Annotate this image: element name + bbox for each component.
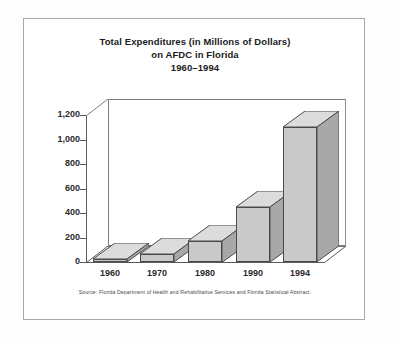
chart-frame: Total Expenditures (in Millions of Dolla… [23,18,365,320]
y-axis-tick-mark [80,189,86,190]
y-axis-tick-mark [80,115,86,116]
y-axis-tick-label: 600 [34,183,80,193]
x-axis-tick-label: 1980 [185,268,225,278]
x-axis-tick-label: 1960 [90,268,130,278]
plot-right-back-edge [345,99,346,247]
y-axis-tick-mark [80,164,86,165]
y-axis-line [86,115,87,262]
bar-front-face [93,259,127,262]
plot-area: 02004006008001,0001,200 1960197019801990… [24,77,366,321]
plot-depth-edge-top-left [86,99,109,116]
x-axis-tick-label: 1970 [137,268,177,278]
title-line-1: Total Expenditures (in Millions of Dolla… [24,35,366,48]
chart-page: Total Expenditures (in Millions of Dolla… [0,0,399,344]
y-axis-tick-mark [80,238,86,239]
y-axis-tick-label: 1,000 [34,134,80,144]
x-axis-labels: 19601970198019901994 [86,268,346,284]
x-axis-line [86,262,324,263]
y-axis-tick-mark [80,262,86,263]
title-line-3: 1960–1994 [24,61,366,74]
chart-title: Total Expenditures (in Millions of Dolla… [24,35,366,74]
y-axis-tick-label: 800 [34,158,80,168]
x-axis-tick-label: 1990 [233,268,273,278]
y-axis-tick-mark [80,140,86,141]
source-note: Source: Florida Department of Health and… [24,289,366,295]
y-axis-tick-label: 1,200 [34,109,80,119]
bar-1994 [283,111,339,262]
bar-front-face [236,207,270,262]
x-axis-tick-label: 1994 [280,268,320,278]
y-axis-tick-mark [80,213,86,214]
bar-front-face [140,254,174,262]
bar-front-face [283,127,317,262]
bar-front-face [188,241,222,262]
y-axis-labels: 02004006008001,0001,200 [24,77,80,321]
y-axis-tick-label: 200 [34,232,80,242]
title-line-2: on AFDC in Florida [24,48,366,61]
y-axis-tick-label: 0 [34,256,80,266]
y-axis-tick-label: 400 [34,207,80,217]
